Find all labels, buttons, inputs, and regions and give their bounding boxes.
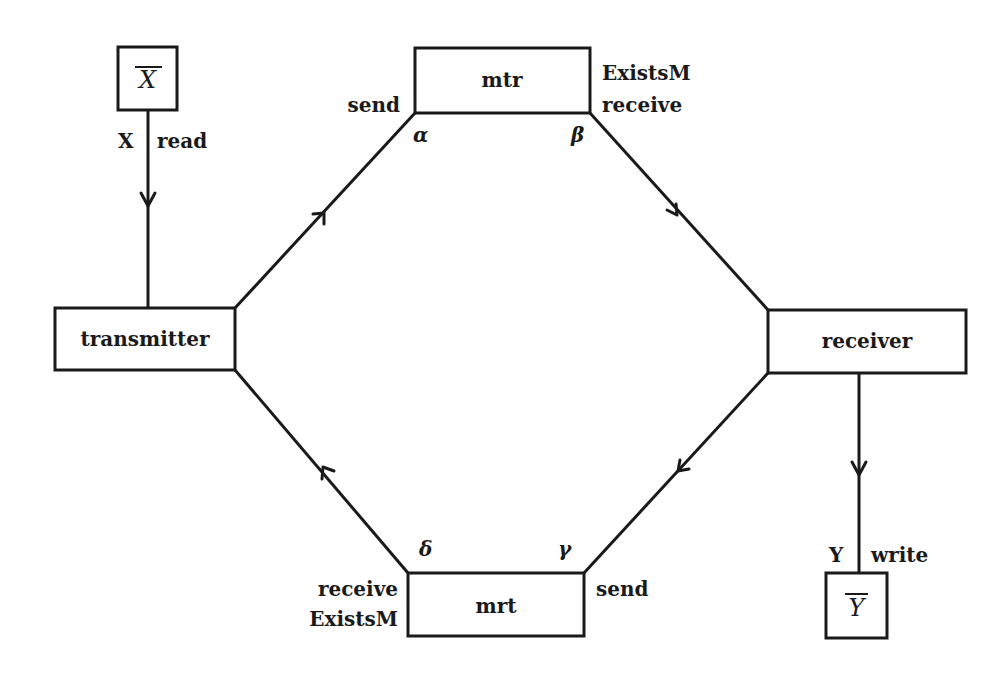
node-transmitter[interactable]: transmitter [55, 308, 235, 370]
node-ybar-label: Y [849, 594, 867, 622]
label-y: Y [828, 543, 844, 567]
label-mtr-existsm: ExistsM [602, 61, 691, 85]
node-ybar[interactable]: Y [826, 573, 887, 638]
label-alpha: α [413, 123, 428, 147]
edge-mtr-receiver [590, 113, 768, 310]
label-x: X [118, 129, 134, 153]
label-gamma: γ [558, 537, 572, 561]
label-mtr-send: send [347, 93, 400, 117]
edge-receiver-mrt [584, 373, 768, 573]
label-mrt-receive: receive [318, 577, 398, 601]
label-mrt-existsm: ExistsM [309, 607, 398, 631]
label-delta: δ [418, 537, 432, 561]
node-mtr[interactable]: mtr [415, 48, 590, 113]
node-transmitter-label: transmitter [80, 327, 209, 351]
edge-transmitter-mtr [235, 113, 415, 308]
edges [141, 110, 866, 573]
label-beta: β [570, 123, 584, 147]
node-xbar-label: X [137, 66, 157, 94]
node-xbar[interactable]: X [118, 47, 177, 110]
process-diagram: X transmitter mtr receiver mrt Y X read … [0, 0, 1007, 678]
node-receiver-label: receiver [822, 329, 913, 353]
label-read: read [157, 129, 207, 153]
label-write: write [870, 543, 928, 567]
node-mtr-label: mtr [482, 68, 523, 92]
label-mtr-receive: receive [602, 93, 682, 117]
node-mrt-label: mrt [476, 594, 518, 618]
label-mrt-send: send [596, 577, 649, 601]
node-mrt[interactable]: mrt [408, 573, 584, 636]
node-receiver[interactable]: receiver [768, 310, 966, 373]
